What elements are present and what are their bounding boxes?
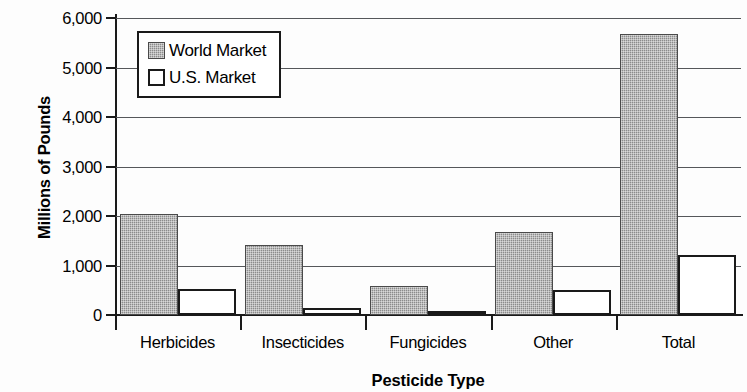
legend-swatch-us-market-icon [148,69,165,86]
y-tick-label: 1,000 [28,258,102,275]
x-axis-category-labels: HerbicidesInsecticidesFungicidesOtherTot… [115,333,741,359]
legend-swatch-world-market-icon [148,42,165,59]
x-tick-mark [365,316,367,330]
x-tick-mark [240,316,242,330]
y-axis-tick-labels: 6,000 5,000 4,000 3,000 2,000 1,000 0 [28,0,102,392]
y-tick-label: 5,000 [28,60,102,77]
legend-item-world-market: World Market [148,37,266,64]
bar-total-us-market [678,255,736,315]
x-axis-title: Pesticide Type [115,371,741,390]
bar-herbicides-world-market [120,214,178,315]
y-tick-label: 4,000 [28,109,102,126]
bar-herbicides-us-market [178,289,236,315]
bar-fungicides-us-market [428,311,486,315]
x-category-label: Insecticides [240,333,365,352]
bar-other-us-market [553,290,611,315]
bar-other-world-market [495,232,553,315]
legend-label: World Market [169,41,266,61]
chart-legend: World Market U.S. Market [137,31,281,98]
x-category-label: Other [491,333,616,352]
legend-label: U.S. Market [169,68,255,88]
x-tick-mark [491,316,493,330]
x-tick-mark [115,316,117,330]
y-tick-label: 0 [28,307,102,324]
bar-fungicides-world-market [370,286,428,315]
x-tick-mark [616,316,618,330]
bar-insecticides-world-market [245,245,303,315]
bar-total-world-market [620,34,678,315]
y-tick-label: 3,000 [28,159,102,176]
x-axis-tick-marks [115,316,741,332]
y-tick-label: 6,000 [28,10,102,27]
bar-insecticides-us-market [303,308,361,315]
y-tick-label: 2,000 [28,208,102,225]
bar-chart-figure: Millions of Pounds 6,000 5,000 4,000 3,0… [0,0,747,392]
legend-item-us-market: U.S. Market [148,64,266,91]
x-category-label: Total [616,333,741,352]
x-category-label: Fungicides [365,333,490,352]
x-category-label: Herbicides [115,333,240,352]
